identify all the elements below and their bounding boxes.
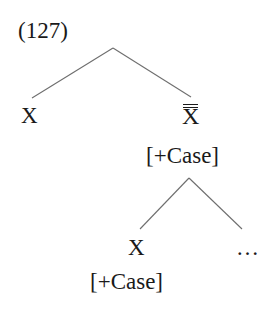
node-xbar: X [181,100,201,126]
node-xbar-feature: [+Case] [146,144,219,167]
edge-root-to-x [32,48,113,98]
edge-xbar-to-lower-x [140,178,189,229]
tree-edges [0,0,274,312]
edge-xbar-to-ellipsis [189,178,242,229]
edge-root-to-xbar [113,48,191,97]
node-lower-x: X [128,236,145,259]
node-lower-feature: [+Case] [90,270,163,293]
example-number: (127) [18,19,68,42]
node-left-x: X [21,104,38,127]
node-ellipsis: … [236,236,259,259]
node-xbar-label: X [182,104,199,128]
